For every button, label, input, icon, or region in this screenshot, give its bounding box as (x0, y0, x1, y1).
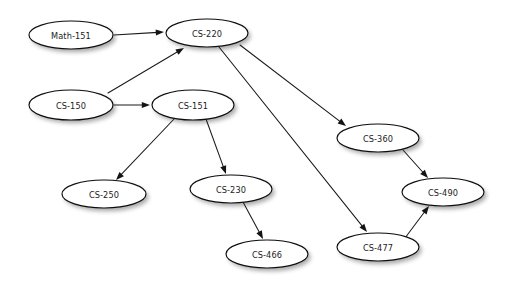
graph-edge (108, 48, 184, 93)
graph-node-cs150[interactable]: CS-150 (29, 90, 116, 123)
graph-edge (405, 206, 429, 238)
prerequisite-graph-canvas: Math-151CS-220CS-150CS-151CS-250CS-230CS… (0, 0, 509, 290)
graph-node-cs250[interactable]: CS-250 (62, 180, 149, 211)
graph-node-cs151[interactable]: CS-151 (152, 90, 237, 123)
edge-line (108, 51, 179, 93)
graph-node-cs360[interactable]: CS-360 (337, 124, 422, 155)
edge-line (114, 32, 158, 35)
graph-node-math151[interactable]: Math-151 (29, 21, 116, 52)
edge-arrowhead (338, 119, 346, 126)
node-ellipse[interactable] (337, 233, 419, 261)
graph-node-cs466[interactable]: CS-466 (226, 240, 311, 271)
graph-node-cs477[interactable]: CS-477 (337, 233, 422, 264)
edge-arrowhead (220, 165, 226, 174)
edge-line (405, 211, 425, 238)
graph-edge (116, 118, 175, 180)
edge-line (240, 45, 341, 122)
node-ellipse[interactable] (29, 21, 113, 49)
edge-arrowhead (359, 224, 367, 232)
node-ellipse[interactable] (337, 124, 419, 152)
graph-node-cs230[interactable]: CS-230 (190, 175, 275, 206)
edge-arrowhead (256, 230, 263, 239)
graph-svg: Math-151CS-220CS-150CS-151CS-250CS-230CS… (0, 0, 509, 290)
node-ellipse[interactable] (166, 19, 248, 47)
edge-line (120, 118, 175, 176)
node-ellipse[interactable] (152, 90, 234, 120)
node-ellipse[interactable] (402, 178, 484, 206)
graph-edge (206, 119, 226, 174)
edge-arrowhead (175, 48, 184, 55)
edge-arrowhead (156, 29, 164, 35)
graph-edge (243, 202, 263, 239)
node-ellipse[interactable] (29, 90, 113, 120)
node-ellipse[interactable] (190, 175, 272, 203)
graph-edge (403, 150, 428, 178)
edge-line (206, 119, 224, 168)
node-ellipse[interactable] (226, 240, 308, 268)
edge-arrowhead (142, 102, 150, 108)
graph-node-cs220[interactable]: CS-220 (166, 19, 251, 50)
graph-edge (114, 29, 164, 35)
graph-edge (240, 45, 346, 126)
node-ellipse[interactable] (62, 180, 146, 208)
graph-node-cs490[interactable]: CS-490 (402, 178, 487, 209)
edge-line (243, 202, 260, 234)
edge-line (403, 150, 424, 174)
graph-edge (114, 102, 150, 108)
